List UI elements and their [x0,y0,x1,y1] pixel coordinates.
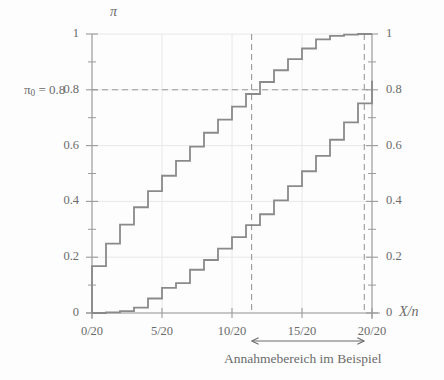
tick-label-y-left: 0.6 [0,139,79,152]
tick-label-y-right: 0 [386,306,392,319]
tick-label-y-left: 0 [0,306,79,319]
tick-label-y-right: 0.6 [386,139,402,152]
tick-label-y-right: 0.8 [386,83,402,96]
y-axis-title: π [110,5,117,19]
gridlines-group [92,34,372,313]
annotation-arrow-group [252,338,365,344]
tick-label-y-left: 0.2 [0,250,79,263]
tick-label-x: 20/20 [342,325,402,338]
tick-label-x: 5/20 [132,325,192,338]
x-axis-title: X/n [399,305,418,319]
tick-label-y-left: 0.4 [0,194,79,207]
tick-label-x: 15/20 [272,325,332,338]
chart-figure: π X/n π0 = 0.8 Annahmebereich im Beispie… [0,0,444,380]
tick-label-y-left: 0.8 [0,83,79,96]
x-axis-denominator: n [411,304,418,319]
x-axis-numerator: X [399,304,408,319]
tick-label-x: 10/20 [202,325,262,338]
tick-label-y-right: 0.4 [386,194,402,207]
axes-group [86,34,380,319]
tick-label-x: 0/20 [62,325,122,338]
tick-label-y-right: 1 [386,27,392,40]
tick-label-y-right: 0.2 [386,250,402,263]
acceptance-range-label: Annahmebereich im Beispiel [224,352,381,366]
tick-label-y-left: 1 [0,27,79,40]
chart-plot-area [0,0,444,380]
